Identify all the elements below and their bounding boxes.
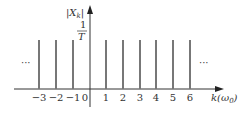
tick-label: 6 [187, 92, 193, 103]
tick-label: 5 [170, 92, 176, 103]
tick-label: 2 [120, 92, 126, 103]
amplitude-numerator: 1 [80, 19, 86, 30]
spectrum-diagram: |Xk| 1 T ··· ··· −3 −2 −1 0 1 2 3 4 5 6 … [0, 0, 252, 113]
k-axis-label: k(ω0) [211, 92, 238, 105]
impulse-lines [39, 40, 190, 89]
magnitude-axis-arrow-icon [87, 5, 93, 14]
tick-label: 1 [103, 92, 109, 103]
tick-label: −3 [32, 92, 47, 103]
tick-label: 0 [82, 92, 88, 103]
ellipsis-right: ··· [199, 57, 209, 68]
tick-label: 3 [137, 92, 143, 103]
ellipsis-left: ··· [21, 57, 31, 68]
tick-label: −2 [49, 92, 64, 103]
tick-label: 4 [153, 92, 159, 103]
tick-label: −1 [66, 92, 81, 103]
tick-labels: −3 −2 −1 0 1 2 3 4 5 6 [32, 92, 194, 103]
amplitude-denominator: T [78, 31, 86, 42]
